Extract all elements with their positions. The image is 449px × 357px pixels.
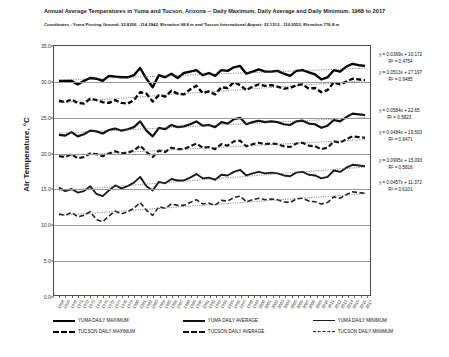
x-tick-mark — [160, 295, 161, 298]
gridline-horizontal — [54, 154, 370, 155]
tucson-minimum-trend: y = 0.0457x + 11.372R² = 0.6101 — [379, 180, 422, 194]
x-tick-mark — [304, 295, 305, 298]
chart-title: Annual Average Temperatures in Yuma and … — [44, 8, 440, 15]
x-tick-mark — [354, 295, 355, 298]
legend-line-swatch-icon — [183, 331, 205, 333]
legend-item[interactable]: YUMA DAILY MINIMUM — [313, 318, 443, 323]
y-tick-label: 35.0 — [41, 43, 51, 49]
x-tick-mark — [153, 295, 154, 298]
x-tick-mark — [317, 295, 318, 298]
x-tick-mark — [191, 295, 192, 298]
x-tick-mark — [97, 295, 98, 298]
x-tick-mark — [78, 295, 79, 298]
trendline-equation-text: y = 0.0584x + 22.65 — [379, 108, 420, 115]
plot-area: 0.05.010.015.020.025.030.035.01968196919… — [53, 45, 371, 296]
legend-item[interactable]: YUMA DAILY MAXIMUM — [53, 318, 183, 323]
y-tick-mark — [51, 297, 54, 298]
legend-line-swatch-icon — [313, 320, 335, 321]
legend-item-label: YUMA DAILY MINIMUM — [338, 318, 387, 323]
x-tick-mark — [166, 295, 167, 298]
x-tick-mark — [109, 295, 110, 298]
x-tick-mark — [279, 295, 280, 298]
series-line — [59, 165, 365, 196]
x-tick-mark — [273, 295, 274, 298]
x-tick-mark — [90, 295, 91, 298]
trendline-equation-text: y = 0.0457x + 11.372 — [379, 180, 422, 187]
gridline-horizontal — [54, 118, 370, 119]
trendline-r2-text: R² = 0.6471 — [379, 137, 422, 144]
x-tick-mark — [235, 295, 236, 298]
x-tick-mark — [310, 295, 311, 298]
x-tick-mark — [147, 295, 148, 298]
x-tick-mark — [178, 295, 179, 298]
trendline-r2-text: R² = 0.9485 — [379, 77, 422, 84]
legend-line-swatch-icon — [183, 320, 205, 322]
x-tick-mark — [65, 295, 66, 298]
y-tick-mark — [51, 225, 54, 226]
trendline-equation-text: y = 0.0369x + 10.172 — [379, 52, 422, 59]
tucson-average-trend: y = 0.0484x + 19.503R² = 0.6471 — [379, 130, 422, 144]
x-tick-mark — [128, 295, 129, 298]
x-tick-mark — [84, 295, 85, 298]
x-tick-mark — [367, 295, 368, 298]
y-tick-mark — [51, 117, 54, 118]
x-tick-mark — [141, 295, 142, 298]
y-tick-mark — [51, 153, 54, 154]
legend-line-swatch-icon — [53, 320, 75, 322]
x-tick-mark — [292, 295, 293, 298]
x-tick-mark — [185, 295, 186, 298]
gridline-horizontal — [54, 82, 370, 83]
x-tick-mark — [59, 295, 60, 298]
x-tick-mark — [72, 295, 73, 298]
tucson-maximum-trend: y = 0.0513x + 27.197R² = 0.9485 — [379, 70, 422, 84]
y-tick-label: 25.0 — [41, 115, 51, 121]
x-tick-mark — [336, 295, 337, 298]
yuma-average-trend: y = 0.0584x + 22.65R² = 0.5823 — [379, 108, 420, 122]
chart-subtitle: Coordinates : Yuma Proving Ground: 32.83… — [44, 22, 444, 27]
y-tick-mark — [51, 261, 54, 262]
legend-line-swatch-icon — [313, 331, 335, 332]
y-tick-mark — [51, 189, 54, 190]
gridline-horizontal — [54, 189, 370, 190]
legend-item[interactable]: TUCSON DAILY MINIMUM — [313, 329, 443, 334]
x-tick-mark — [329, 295, 330, 298]
chart-figure: Annual Average Temperatures in Yuma and … — [0, 0, 449, 357]
trendline-r2-text: R² = 0.6101 — [379, 187, 422, 194]
trendline — [59, 167, 365, 191]
x-tick-mark — [134, 295, 135, 298]
x-tick-mark — [323, 295, 324, 298]
gridline-horizontal — [54, 225, 370, 226]
legend-item[interactable]: YUMA DAILY AVERAGE — [183, 318, 313, 323]
legend-line-swatch-icon — [53, 331, 75, 333]
legend-item-label: TUCSON DAILY MINIMUM — [338, 329, 393, 334]
x-tick-mark — [241, 295, 242, 298]
x-tick-mark — [103, 295, 104, 298]
y-tick-mark — [51, 81, 54, 82]
legend-row-yuma: YUMA DAILY MAXIMUMYUMA DAILY AVERAGEYUMA… — [53, 318, 443, 323]
y-tick-mark — [51, 46, 54, 47]
legend-item-label: TUCSON DAILY MAXIMUM — [78, 329, 135, 334]
trendline-r2-text: R² = 0.5823 — [379, 115, 420, 122]
series-line — [59, 192, 365, 222]
x-tick-mark — [197, 295, 198, 298]
legend-item[interactable]: TUCSON DAILY AVERAGE — [183, 329, 313, 334]
y-tick-label: 20.0 — [41, 151, 51, 157]
x-tick-mark — [116, 295, 117, 298]
x-tick-mark — [172, 295, 173, 298]
x-tick-mark — [122, 295, 123, 298]
y-tick-label: 5.0 — [44, 258, 51, 264]
x-tick-mark — [222, 295, 223, 298]
x-tick-mark — [204, 295, 205, 298]
x-tick-mark — [285, 295, 286, 298]
x-tick-mark — [342, 295, 343, 298]
yuma-minimum-trend: y = 0.0995x + 15.093R² = 0.5816 — [379, 158, 422, 172]
legend-item[interactable]: TUCSON DAILY MAXIMUM — [53, 329, 183, 334]
y-tick-label: 15.0 — [41, 186, 51, 192]
x-tick-mark — [210, 295, 211, 298]
y-tick-label: 30.0 — [41, 79, 51, 85]
legend-row-tucson: TUCSON DAILY MAXIMUMTUCSON DAILY AVERAGE… — [53, 329, 443, 334]
gridline-horizontal — [54, 261, 370, 262]
y-axis-label: Air Temperature, °C — [22, 85, 31, 225]
legend-item-label: YUMA DAILY AVERAGE — [208, 318, 258, 323]
x-tick-mark — [361, 295, 362, 298]
